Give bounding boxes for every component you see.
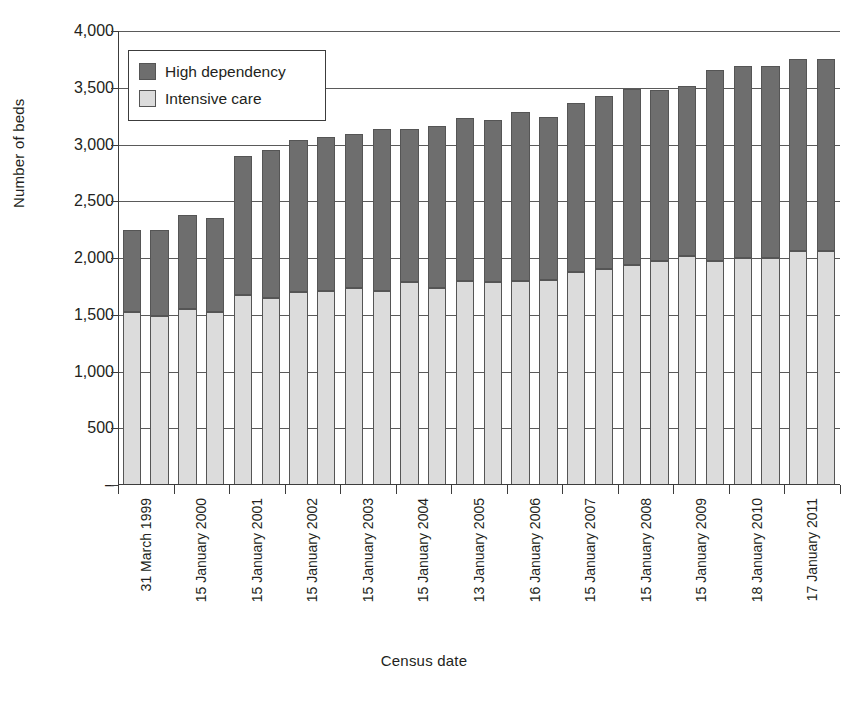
x-tick-label: 15 January 2004 <box>416 498 430 648</box>
y-tick-mark <box>111 201 118 202</box>
x-tick-mark <box>562 485 563 494</box>
y-tick-mark <box>111 258 118 259</box>
y-tick-mark <box>111 485 118 486</box>
x-axis-title: Census date <box>0 652 848 669</box>
x-tick-mark <box>396 485 397 494</box>
y-tick-label: 3,000 <box>44 137 114 153</box>
x-tick-label: 15 January 2008 <box>639 498 653 648</box>
y-axis-tick-labels: –5001,0001,5002,0002,5003,0003,5004,000 <box>44 0 114 701</box>
x-tick-label: 15 January 2000 <box>194 498 208 648</box>
x-tick-label: 15 January 2003 <box>361 498 375 648</box>
y-tick-label: 3,500 <box>44 80 114 96</box>
x-tick-label: 17 January 2011 <box>805 498 819 648</box>
x-tick-mark <box>840 485 841 494</box>
x-tick-label: 15 January 2009 <box>694 498 708 648</box>
y-tick-label: 500 <box>44 420 114 436</box>
y-tick-mark <box>111 315 118 316</box>
x-tick-label: 18 January 2010 <box>750 498 764 648</box>
x-tick-mark <box>229 485 230 494</box>
x-tick-mark <box>673 485 674 494</box>
legend-swatch-high-dependency <box>139 63 156 80</box>
y-tick-label: 2,500 <box>44 193 114 209</box>
y-tick-label: 1,500 <box>44 307 114 323</box>
legend-label-intensive-care: Intensive care <box>165 91 262 107</box>
chart-legend: High dependency Intensive care <box>128 50 326 121</box>
y-tick-mark <box>111 145 118 146</box>
x-tick-label: 15 January 2007 <box>583 498 597 648</box>
x-tick-mark <box>285 485 286 494</box>
x-tick-mark <box>507 485 508 494</box>
legend-swatch-intensive-care <box>139 90 156 107</box>
y-tick-label: 2,000 <box>44 250 114 266</box>
y-tick-mark <box>111 428 118 429</box>
legend-item-high-dependency: High dependency <box>139 58 315 85</box>
x-tick-mark <box>174 485 175 494</box>
y-tick-label: – <box>44 477 114 493</box>
legend-item-intensive-care: Intensive care <box>139 85 315 112</box>
x-tick-mark <box>784 485 785 494</box>
x-tick-mark <box>340 485 341 494</box>
legend-label-high-dependency: High dependency <box>165 64 286 80</box>
chart-figure: Number of beds –5001,0001,5002,0002,5003… <box>0 0 848 701</box>
y-tick-mark <box>111 372 118 373</box>
x-tick-label: 13 January 2005 <box>472 498 486 648</box>
y-tick-mark <box>111 31 118 32</box>
x-tick-label: 31 March 1999 <box>139 498 153 648</box>
x-tick-label: 15 January 2002 <box>305 498 319 648</box>
y-tick-label: 1,000 <box>44 364 114 380</box>
x-tick-mark <box>618 485 619 494</box>
y-axis-title: Number of beds <box>10 8 34 208</box>
x-tick-mark <box>451 485 452 494</box>
y-tick-label: 4,000 <box>44 23 114 39</box>
x-tick-label: 16 January 2006 <box>528 498 542 648</box>
x-tick-label: 15 January 2001 <box>250 498 264 648</box>
x-tick-mark <box>118 485 119 494</box>
y-tick-mark <box>111 88 118 89</box>
x-tick-mark <box>729 485 730 494</box>
